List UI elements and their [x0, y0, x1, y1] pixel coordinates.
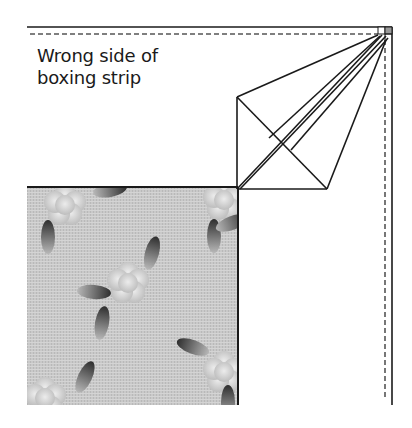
- label-line-1: Wrong side of: [37, 45, 158, 67]
- corner-notch: [378, 27, 385, 34]
- corner-square: [385, 27, 392, 34]
- wrong-side-label: Wrong side of boxing strip: [37, 45, 158, 89]
- label-line-2: boxing strip: [37, 67, 158, 89]
- fabric-square: [24, 179, 250, 419]
- folded-corner: [237, 35, 388, 189]
